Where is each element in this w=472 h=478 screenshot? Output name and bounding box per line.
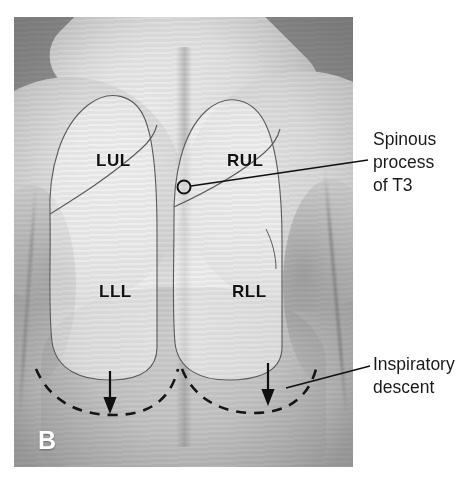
label-lll: LLL: [99, 282, 132, 302]
callout-spinous-line-2: process: [373, 151, 436, 174]
callout-inspiratory-descent: Inspiratory descent: [373, 353, 455, 399]
panel-letter-b: B: [38, 426, 56, 455]
label-rll: RLL: [232, 282, 267, 302]
label-lul: LUL: [96, 151, 131, 171]
callout-spinous-line-3: of T3: [373, 174, 436, 197]
label-rul: RUL: [227, 151, 263, 171]
figure-b-posterior-chest: LUL RUL LLL RLL B Spinous process of T3 …: [0, 0, 472, 478]
photo-vignette: [14, 17, 353, 467]
callout-descent-line-2: descent: [373, 376, 455, 399]
posterior-thorax-photograph: LUL RUL LLL RLL B: [14, 17, 353, 467]
callout-spinous-line-1: Spinous: [373, 128, 436, 151]
callout-descent-line-1: Inspiratory: [373, 353, 455, 376]
callout-spinous-process: Spinous process of T3: [373, 128, 436, 197]
